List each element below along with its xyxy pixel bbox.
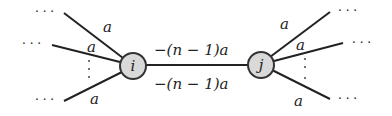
graph-diagram: · · · · · · · · · · · · · · · · · · a a … <box>0 0 392 116</box>
node-i: i <box>120 53 146 79</box>
right-continuation-bottom: · · · <box>338 92 357 106</box>
center-edge-label-top: −(n − 1)a <box>154 41 229 59</box>
right-edge-label-bottom: a <box>294 92 303 110</box>
right-continuation-middle: · · · <box>352 36 371 50</box>
node-j: j <box>248 52 274 78</box>
node-i-label: i <box>131 57 136 75</box>
left-vertical-ellipsis <box>88 60 90 78</box>
left-continuation-top: · · · <box>35 5 54 19</box>
right-continuation-top: · · · <box>338 4 357 18</box>
center-edge-label-bottom: −(n − 1)a <box>154 75 229 93</box>
right-vertical-ellipsis <box>304 58 306 79</box>
left-edge-label-bottom: a <box>90 90 99 108</box>
right-edge-label-top: a <box>280 15 289 33</box>
left-edge-label-top: a <box>103 18 112 36</box>
left-edge-label-middle: a <box>87 38 96 56</box>
right-edge-label-middle: a <box>296 36 305 54</box>
left-continuation-bottom: · · · <box>35 93 54 107</box>
left-continuation-middle: · · · <box>22 37 41 51</box>
